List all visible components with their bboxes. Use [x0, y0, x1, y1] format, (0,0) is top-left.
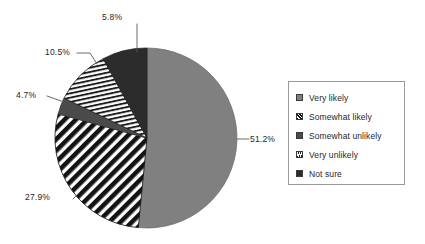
pie-slices [55, 48, 237, 228]
legend-list: Very likely Somewhat likely Somewhat unl… [296, 88, 400, 183]
legend-item-very-unlikely[interactable]: Very unlikely [296, 145, 400, 164]
pie-label-very-likely: 51.2% [250, 134, 275, 144]
leader-line-somewhat-unlikely [47, 96, 64, 102]
legend-item-somewhat-unlikely[interactable]: Somewhat unlikely [296, 126, 400, 145]
legend-label-somewhat-likely: Somewhat likely [309, 112, 372, 122]
pie-label-somewhat-likely: 27.9% [25, 192, 50, 202]
pie-slice-very-likely [138, 48, 237, 228]
legend-swatch-icon-very-unlikely [296, 151, 303, 158]
legend-item-not-sure[interactable]: Not sure [296, 164, 400, 183]
legend-swatch-icon-somewhat-likely [296, 113, 303, 120]
legend-label-very-likely: Very likely [309, 93, 348, 103]
legend-swatch-icon-very-likely [296, 94, 303, 101]
legend-label-somewhat-unlikely: Somewhat unlikely [309, 131, 382, 141]
legend-swatch-icon-somewhat-unlikely [296, 132, 303, 139]
leader-line-very-unlikely [77, 53, 97, 64]
chart-legend: Very likely Somewhat likely Somewhat unl… [288, 81, 405, 185]
legend-label-not-sure: Not sure [309, 169, 342, 179]
legend-swatch-icon-not-sure [296, 170, 303, 177]
pie-label-somewhat-unlikely: 4.7% [16, 90, 36, 100]
legend-item-very-likely[interactable]: Very likely [296, 88, 400, 107]
pie-label-not-sure: 5.8% [102, 12, 122, 22]
legend-item-somewhat-likely[interactable]: Somewhat likely [296, 107, 400, 126]
pie-chart-figure: 51.2% 27.9% 4.7% 10.5% 5.8% Very likely … [0, 0, 425, 244]
pie-label-very-unlikely: 10.5% [45, 47, 70, 57]
legend-label-very-unlikely: Very unlikely [309, 150, 358, 160]
